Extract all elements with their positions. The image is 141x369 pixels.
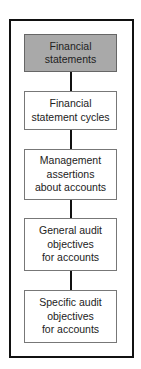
node-label: General audit — [39, 224, 102, 236]
node-financial-statements: Financialstatements — [24, 34, 117, 72]
node-label: objectives — [47, 238, 94, 250]
node-label: statements — [45, 53, 96, 65]
connector — [70, 271, 72, 290]
connector — [70, 200, 72, 218]
node-label: Financial — [49, 40, 91, 52]
node-label: objectives — [47, 310, 94, 322]
node-label: about accounts — [35, 181, 106, 193]
node-label: Management — [40, 154, 101, 166]
node-label: assertions — [47, 168, 95, 180]
node-label: statement cycles — [31, 111, 109, 123]
node-label: for accounts — [42, 251, 99, 263]
connector — [70, 130, 72, 149]
node-label: Specific audit — [39, 296, 101, 308]
node-specific-audit-objectives: Specific auditobjectivesfor accounts — [24, 290, 117, 343]
node-label: Financial — [49, 97, 91, 109]
node-management-assertions: Managementassertionsabout accounts — [24, 149, 117, 200]
node-financial-statement-cycles: Financialstatement cycles — [24, 91, 117, 130]
node-general-audit-objectives: General auditobjectivesfor accounts — [24, 218, 117, 271]
connector — [70, 72, 72, 91]
node-label: for accounts — [42, 323, 99, 335]
